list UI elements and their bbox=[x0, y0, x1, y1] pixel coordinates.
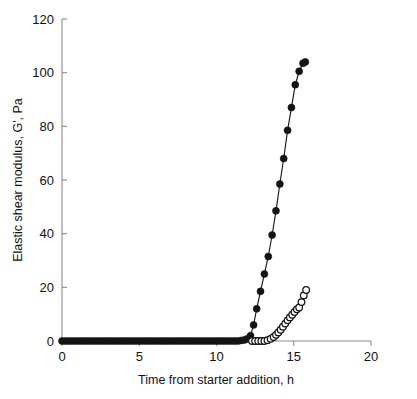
x-tick-label: 5 bbox=[136, 349, 143, 364]
data-point-filled bbox=[272, 207, 279, 214]
x-tick-label-group: 05101520 bbox=[58, 349, 378, 364]
series-filled-circles-markers bbox=[59, 58, 309, 344]
data-point-filled bbox=[253, 305, 260, 312]
x-tick-label: 20 bbox=[364, 349, 378, 364]
x-axis-title: Time from starter addition, h bbox=[138, 373, 294, 387]
y-tick-label: 20 bbox=[40, 280, 54, 295]
data-point-filled bbox=[276, 181, 283, 188]
chart-plot-area: 020406080100120 05101520 Time from start… bbox=[0, 0, 417, 399]
data-point-filled bbox=[269, 232, 276, 239]
series-filled-circles-line bbox=[62, 62, 305, 341]
y-tick-label: 100 bbox=[32, 65, 54, 80]
data-point-filled bbox=[284, 127, 291, 134]
data-point-filled bbox=[292, 81, 299, 88]
x-tick-label: 15 bbox=[287, 349, 301, 364]
series-open-circles-markers bbox=[249, 287, 310, 345]
data-point-filled bbox=[257, 288, 264, 295]
data-point-filled bbox=[265, 253, 272, 260]
data-point-filled bbox=[288, 104, 295, 111]
data-point-filled bbox=[296, 68, 303, 75]
chart-figure: 020406080100120 05101520 Time from start… bbox=[0, 0, 417, 399]
x-tick-label: 0 bbox=[58, 349, 65, 364]
y-tick-label: 0 bbox=[47, 334, 54, 349]
y-tick-label: 80 bbox=[40, 119, 54, 134]
data-point-filled bbox=[302, 58, 309, 65]
x-tick-label: 10 bbox=[209, 349, 223, 364]
y-tick-label: 120 bbox=[32, 12, 54, 27]
data-point-filled bbox=[250, 321, 257, 328]
y-tick-label-group: 020406080100120 bbox=[32, 12, 54, 349]
data-point-filled bbox=[280, 155, 287, 162]
y-axis-title: Elastic shear modulus, G', Pa bbox=[11, 98, 25, 262]
y-tick-label: 60 bbox=[40, 173, 54, 188]
data-point-filled bbox=[261, 270, 268, 277]
y-tick-label: 40 bbox=[40, 226, 54, 241]
data-point-open bbox=[303, 287, 310, 294]
y-tick-group bbox=[62, 19, 67, 341]
data-point-open bbox=[298, 299, 305, 306]
